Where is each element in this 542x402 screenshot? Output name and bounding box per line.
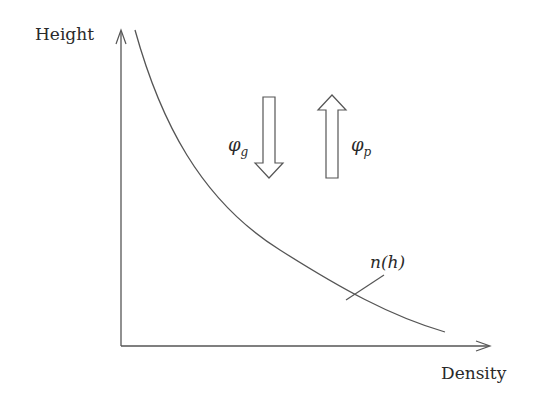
phi-p-label: φp: [351, 134, 371, 159]
down-arrow-icon: [255, 97, 283, 178]
y-axis-label: Height: [35, 24, 94, 44]
curve-label: n(h): [370, 252, 405, 272]
phi-g-label: φg: [228, 134, 248, 159]
diagram-canvas: [0, 0, 542, 402]
up-arrow-icon: [318, 95, 346, 178]
phi-p-subscript: p: [364, 145, 372, 159]
x-axis-label: Density: [441, 363, 506, 383]
phi-p-base: φ: [351, 134, 364, 155]
density-curve: [135, 30, 445, 332]
curve-label-leader: [346, 275, 384, 300]
phi-g-base: φ: [228, 134, 241, 155]
phi-g-subscript: g: [241, 145, 249, 159]
